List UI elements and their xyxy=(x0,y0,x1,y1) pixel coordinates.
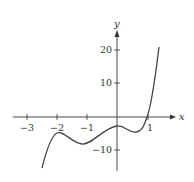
y-tick-label: 10 xyxy=(100,77,112,88)
x-tick-label: −1 xyxy=(80,122,94,133)
chart-canvas: x y −3 −2 −1 1 20 10 −10 xyxy=(0,0,194,182)
y-tick-label: 20 xyxy=(100,44,112,55)
x-tick-label: −3 xyxy=(20,122,34,133)
x-axis-label: x xyxy=(179,111,185,122)
x-axis-arrow-icon xyxy=(170,115,176,120)
y-tick-label: −10 xyxy=(92,144,112,155)
x-tick-label: 1 xyxy=(147,122,153,133)
y-axis-arrow-icon xyxy=(115,30,120,37)
x-tick-label: −2 xyxy=(50,122,64,133)
y-axis-label: y xyxy=(113,18,120,29)
